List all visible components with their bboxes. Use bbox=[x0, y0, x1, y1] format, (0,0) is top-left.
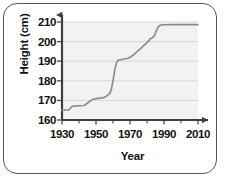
height-vs-year-chart: 210 200 190 180 170 160 1930 1950 1970 1… bbox=[0, 0, 225, 180]
x-tick-2010: 2010 bbox=[178, 128, 218, 140]
y-axis-title: Height (cm) bbox=[18, 0, 30, 88]
x-axis-title: Year bbox=[60, 150, 205, 162]
